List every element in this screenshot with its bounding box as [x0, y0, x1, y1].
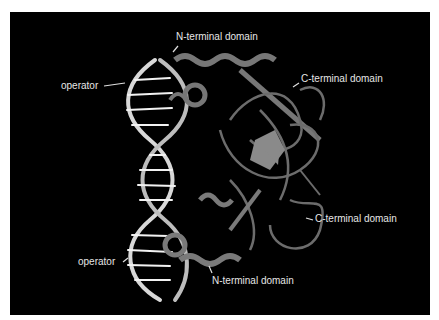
label-n-terminal-domain-top: N-terminal domain	[176, 32, 258, 42]
label-operator-top: operator	[61, 81, 98, 91]
label-c-terminal-domain-top: C-terminal domain	[301, 74, 383, 84]
label-operator-bottom: operator	[78, 257, 115, 267]
label-c-terminal-domain-bottom: C-terminal domain	[315, 214, 397, 224]
n-terminal-domain-top	[170, 56, 320, 140]
molecular-structure-illustration	[0, 0, 439, 320]
label-n-terminal-domain-bottom: N-terminal domain	[212, 276, 294, 286]
